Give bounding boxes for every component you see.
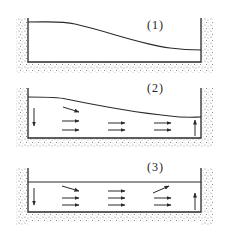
panel-3-label: (3) xyxy=(147,160,164,175)
panel-1 xyxy=(16,18,213,73)
tank-diagram-svg xyxy=(0,0,225,235)
panel-2 xyxy=(16,88,213,148)
panel-2-label: (2) xyxy=(147,81,164,96)
panel-3 xyxy=(16,168,213,226)
diagram: (1) (2) (3) xyxy=(0,0,225,235)
panel-1-label: (1) xyxy=(147,18,164,33)
